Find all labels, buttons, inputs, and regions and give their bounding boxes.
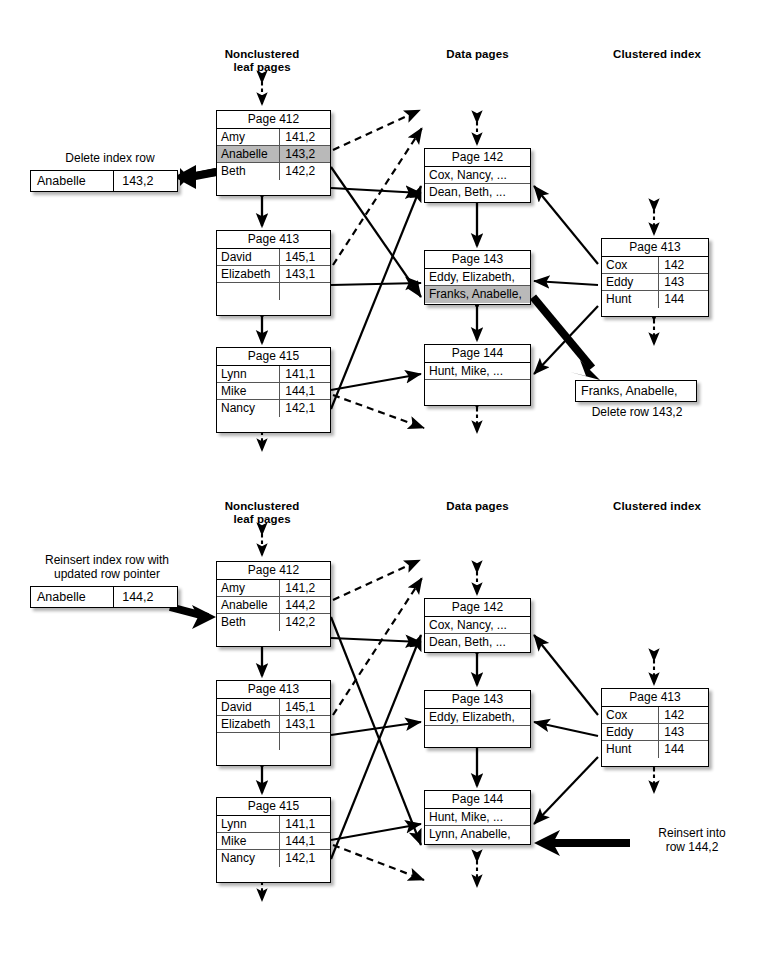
table-row[interactable]: Amy 141,2 [217, 580, 330, 597]
row-key: Anabelle [217, 597, 280, 613]
row-key: Cox [602, 257, 659, 273]
row-value [280, 283, 330, 300]
table-row[interactable]: Elizabeth 143,1 [217, 266, 330, 283]
table-row[interactable]: Elizabeth 143,1 [217, 716, 330, 733]
data-page-142-bottom[interactable]: Page 142 Cox, Nancy, ... Dean, Beth, ... [424, 598, 531, 653]
table-row[interactable]: Eddy 143 [602, 274, 708, 291]
row-value: 144,1 [280, 833, 330, 849]
table-row-empty[interactable] [217, 283, 330, 300]
table-row-highlighted[interactable]: Anabelle 143,2 [217, 146, 330, 163]
data-page-143-bottom[interactable]: Page 143 Eddy, Elizabeth, [424, 690, 531, 748]
table-row[interactable]: Lynn 141,1 [217, 366, 330, 383]
delete-result-callout: Franks, Anabelle, [575, 380, 697, 402]
row-text: Franks, Anabelle, [425, 286, 530, 303]
data-page-142-top[interactable]: Page 142 Cox, Nancy, ... Dean, Beth, ... [424, 148, 531, 203]
leaf-page-412-top[interactable]: Page 412 Amy 141,2 Anabelle 143,2 Beth 1… [216, 110, 331, 196]
data-page-144-bottom[interactable]: Page 144 Hunt, Mike, ... Lynn, Anabelle, [424, 790, 531, 845]
row-value: 141,2 [280, 580, 330, 596]
reinsert-note-line-1: Reinsert into [658, 826, 725, 840]
leaf-page-413-bottom[interactable]: Page 413 David 145,1 Elizabeth 143,1 [216, 680, 331, 766]
row-key: Elizabeth [217, 716, 280, 732]
row-key: Eddy [602, 724, 659, 740]
leaf-page-412-bottom[interactable]: Page 412 Amy 141,2 Anabelle 144,2 Beth 1… [216, 561, 331, 647]
table-row[interactable]: Hunt, Mike, ... [425, 363, 530, 380]
table-row-empty[interactable] [425, 380, 530, 397]
table-row[interactable]: Lynn, Anabelle, [425, 826, 530, 843]
table-row-empty[interactable] [425, 726, 530, 743]
row-key [217, 733, 280, 750]
row-value: 143 [659, 724, 708, 740]
row-value: 143,1 [280, 716, 330, 732]
clustered-index-page-413-bottom[interactable]: Page 413 Cox 142 Eddy 143 Hunt 144 [601, 688, 709, 767]
table-row[interactable]: David 145,1 [217, 699, 330, 716]
table-row[interactable]: Dean, Beth, ... [425, 634, 530, 651]
row-text [425, 380, 530, 397]
table-row[interactable]: Cox 142 [602, 257, 708, 274]
row-key: David [217, 249, 280, 265]
row-value: 144,2 [280, 597, 330, 613]
table-row[interactable]: Mike 144,1 [217, 833, 330, 850]
row-value: 141,1 [280, 366, 330, 382]
table-row[interactable]: Cox, Nancy, ... [425, 617, 530, 634]
table-row[interactable]: Mike 144,1 [217, 383, 330, 400]
row-value: 142 [659, 707, 708, 723]
row-value: 142,1 [280, 400, 330, 417]
row-value: 145,1 [280, 249, 330, 265]
leaf-page-415-bottom[interactable]: Page 415 Lynn 141,1 Mike 144,1 Nancy 142… [216, 797, 331, 883]
row-text: Cox, Nancy, ... [425, 617, 530, 633]
row-key: Beth [217, 163, 280, 180]
row-key [217, 283, 280, 300]
leaf-page-413-top[interactable]: Page 413 David 145,1 Elizabeth 143,1 [216, 230, 331, 316]
clustered-index-page-413-top[interactable]: Page 413 Cox 142 Eddy 143 Hunt 144 [601, 238, 709, 317]
row-value: 141,1 [280, 816, 330, 832]
table-row[interactable]: Anabelle 144,2 [217, 597, 330, 614]
table-row[interactable]: Hunt, Mike, ... [425, 809, 530, 826]
table-row[interactable]: Eddy, Elizabeth, [425, 709, 530, 726]
row-value: 142 [659, 257, 708, 273]
table-row[interactable]: Dean, Beth, ... [425, 184, 530, 201]
leaf-page-415-top[interactable]: Page 415 Lynn 141,1 Mike 144,1 Nancy 142… [216, 347, 331, 433]
connector-lines [0, 0, 759, 955]
row-value: 144,1 [280, 383, 330, 399]
table-row-empty[interactable] [217, 733, 330, 750]
data-page-144-top[interactable]: Page 144 Hunt, Mike, ... [424, 344, 531, 406]
row-value: 145,1 [280, 699, 330, 715]
row-key: Beth [217, 614, 280, 631]
row-key: Nancy [217, 400, 280, 417]
row-value [280, 733, 330, 750]
caption-line-1: Nonclustered [225, 48, 300, 60]
row-key: Cox [602, 707, 659, 723]
row-text: Lynn, Anabelle, [425, 826, 530, 843]
table-row[interactable]: Eddy, Elizabeth, [425, 269, 530, 286]
table-row[interactable]: Nancy 142,1 [217, 850, 330, 867]
table-row-highlighted[interactable]: Franks, Anabelle, [425, 286, 530, 303]
row-key: Hunt [602, 291, 659, 308]
table-row[interactable]: Amy 141,2 [217, 129, 330, 146]
table-row[interactable]: Lynn 141,1 [217, 816, 330, 833]
table-row[interactable]: Cox 142 [602, 707, 708, 724]
row-text: Hunt, Mike, ... [425, 363, 530, 379]
delete-index-row-label: Delete index row [30, 151, 190, 165]
reinsert-callout-key: Anabelle [31, 587, 114, 607]
table-row[interactable]: David 145,1 [217, 249, 330, 266]
reinsert-label-line-1: Reinsert index row with [45, 553, 169, 567]
table-row[interactable]: Hunt 144 [602, 291, 708, 308]
data-page-143-top[interactable]: Page 143 Eddy, Elizabeth, Franks, Anabel… [424, 250, 531, 305]
row-value: 143,2 [280, 146, 330, 162]
table-row[interactable]: Nancy 142,1 [217, 400, 330, 417]
table-row[interactable]: Cox, Nancy, ... [425, 167, 530, 184]
page-header: Page 413 [217, 231, 330, 249]
row-value: 144 [659, 741, 708, 758]
caption-nonclustered-top: Nonclustered leaf pages [201, 48, 323, 74]
page-header: Page 413 [602, 239, 708, 257]
page-header: Page 412 [217, 111, 330, 129]
table-row[interactable]: Hunt 144 [602, 741, 708, 758]
reinsert-label-line-2: updated row pointer [54, 567, 160, 581]
table-row[interactable]: Beth 142,2 [217, 163, 330, 180]
row-value: 143 [659, 274, 708, 290]
table-row[interactable]: Beth 142,2 [217, 614, 330, 631]
page-header: Page 143 [425, 691, 530, 709]
caption-nonclustered-bottom: Nonclustered leaf pages [201, 500, 323, 526]
row-text: Eddy, Elizabeth, [425, 709, 530, 725]
table-row[interactable]: Eddy 143 [602, 724, 708, 741]
